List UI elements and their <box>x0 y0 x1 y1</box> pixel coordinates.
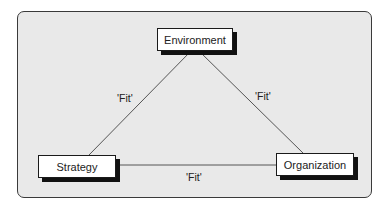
edge-label-bottom: 'Fit' <box>186 171 202 183</box>
node-environment: Environment <box>157 28 233 51</box>
edge-environment-strategy <box>89 51 191 155</box>
node-organization-label: Organization <box>284 159 346 171</box>
node-environment-label: Environment <box>164 34 226 46</box>
node-organization: Organization <box>276 153 354 176</box>
edge-environment-organization <box>199 51 303 153</box>
edge-label-right: 'Fit' <box>255 90 271 102</box>
node-strategy: Strategy <box>38 155 116 178</box>
edge-label-left: 'Fit' <box>117 92 133 104</box>
node-strategy-label: Strategy <box>57 161 98 173</box>
